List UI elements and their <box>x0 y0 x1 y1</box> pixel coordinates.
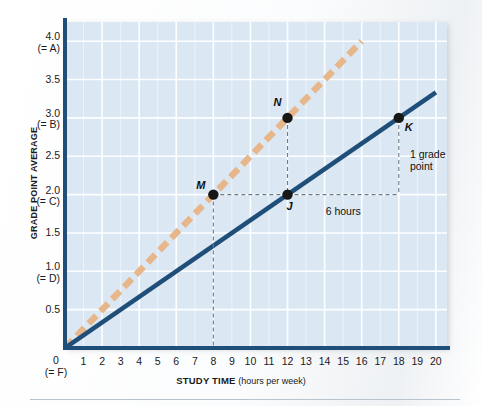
y-tick-grade: (= C) <box>8 196 60 208</box>
data-point-label-m: M <box>196 179 205 191</box>
y-axis-tick-labels: 4.0(= A)3.53.0(= B)2.52.0(= C)1.51.0(= D… <box>8 0 60 406</box>
y-tick-0-5: 0.5 <box>8 304 60 316</box>
x-axis-title-main: STUDY TIME <box>176 375 235 386</box>
y-axis-line <box>63 18 67 350</box>
figure-container: GRADE POINT AVERAGE 4.0(= A)3.53.0(= B)2… <box>0 0 482 406</box>
x-axis-title: STUDY TIME (hours per week) <box>0 375 482 386</box>
y-tick-1-5: 1.5 <box>8 227 60 239</box>
data-point-label-j: J <box>287 200 293 212</box>
x-tick-20: 20 <box>423 355 449 367</box>
y-tick-grade: (= D) <box>8 273 60 285</box>
y-tick-2-5: 2.5 <box>8 150 60 162</box>
y-tick-1-0: 1.0(= D) <box>8 261 60 284</box>
gridlines <box>65 22 447 348</box>
run-label: 6 hours <box>326 205 361 217</box>
y-tick-3-0: 3.0(= B) <box>8 108 60 131</box>
rise-label: 1 gradepoint <box>410 148 446 172</box>
y-tick-value: 3.5 <box>45 73 60 85</box>
x-axis-title-unit: (hours per week) <box>238 376 306 386</box>
y-tick-3-5: 3.5 <box>8 74 60 86</box>
y-tick-value: 3.0 <box>45 107 60 119</box>
y-tick-grade: (= B) <box>8 119 60 131</box>
rise-label-line2: point <box>410 160 446 172</box>
plot-grid-and-series <box>65 22 447 348</box>
x-axis-line <box>63 346 450 350</box>
x-origin-value: 0 <box>53 354 59 366</box>
y-tick-value: 1.5 <box>45 226 60 238</box>
y-tick-value: 2.0 <box>45 184 60 196</box>
rise-label-line1: 1 grade <box>410 148 446 160</box>
y-tick-4-0: 4.0(= A) <box>8 31 60 54</box>
y-tick-grade: (= A) <box>8 43 60 55</box>
y-tick-value: 1.0 <box>45 260 60 272</box>
y-tick-value: 0.5 <box>45 303 60 315</box>
y-tick-value: 4.0 <box>45 30 60 42</box>
bottom-divider <box>30 399 460 400</box>
y-tick-2-0: 2.0(= C) <box>8 185 60 208</box>
y-tick-value: 2.5 <box>45 149 60 161</box>
data-point-label-k: K <box>405 121 413 133</box>
plot-area <box>65 22 447 348</box>
data-point-label-n: N <box>274 96 282 108</box>
